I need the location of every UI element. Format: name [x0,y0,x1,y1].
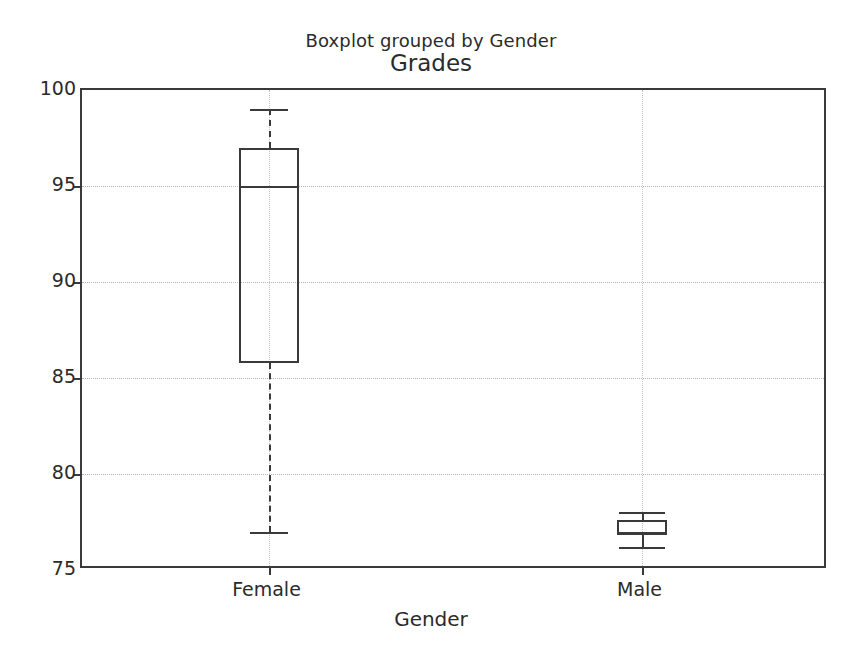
whisker-lower-male [642,535,644,547]
y-axis-label-100: 100 [16,77,76,99]
cap-lower-female [250,532,288,534]
y-axis-label-75: 75 [16,557,76,579]
y-gridline [82,282,824,283]
y-axis-label-80: 80 [16,461,76,483]
figure-suptitle: Boxplot grouped by Gender [0,30,862,51]
y-gridline [82,186,824,187]
x-axis-label-male: Male [530,578,750,600]
whisker-upper-female [269,109,271,147]
boxplot-figure: Boxplot grouped by Gender Grades Gender … [0,0,862,662]
whisker-lower-female [269,363,271,532]
cap-lower-male [619,547,665,549]
y-gridline [82,474,824,475]
x-gridline [642,90,643,566]
x-axis-title: Gender [0,607,862,631]
plot-area [80,88,826,568]
x-axis-label-female: Female [157,578,377,600]
x-axis-tick [642,566,644,575]
x-axis-tick [269,566,271,575]
median-female [239,186,299,188]
y-axis-label-85: 85 [16,365,76,387]
cap-upper-female [250,109,288,111]
y-axis-label-90: 90 [16,269,76,291]
y-gridline [82,378,824,379]
box-female [239,148,299,363]
y-axis-label-95: 95 [16,173,76,195]
axes-title: Grades [0,50,862,76]
cap-upper-male [619,512,665,514]
median-male [617,532,667,534]
